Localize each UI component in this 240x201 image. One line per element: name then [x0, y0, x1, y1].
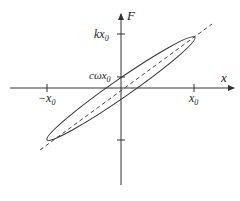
hysteresis-diagram: F x kx0 cωx0 −x0 x0 — [0, 0, 240, 201]
label-x0: x0 — [188, 91, 198, 107]
label-neg-x0: −x0 — [38, 91, 55, 107]
x-axis-label: x — [220, 70, 227, 85]
dashed-stiffness-line — [40, 24, 212, 150]
f-axis-label: F — [126, 8, 136, 23]
label-cwx0: cωx0 — [89, 69, 111, 84]
label-kx0: kx0 — [94, 27, 109, 43]
